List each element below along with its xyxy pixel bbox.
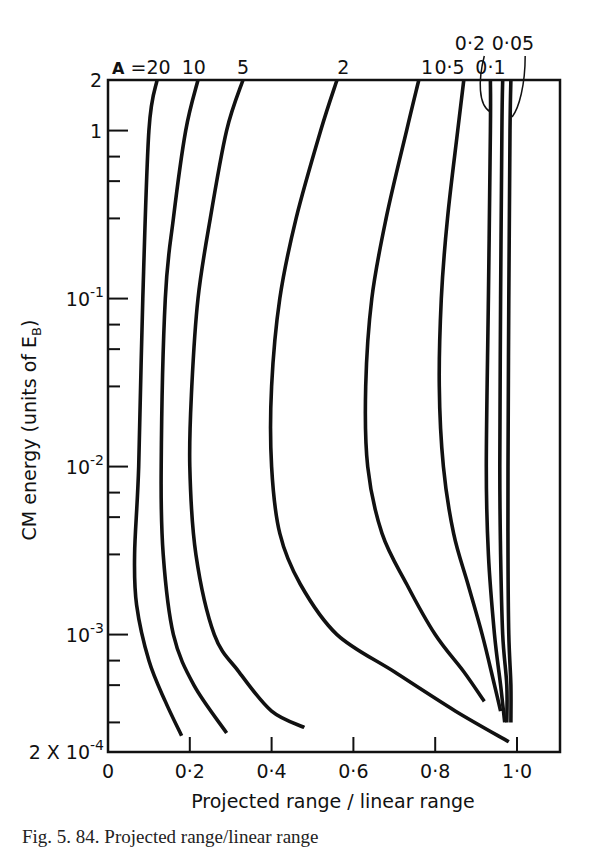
x-axis-ticks: 00·20·40·60·81·0 (102, 737, 532, 782)
x-tick-label: 0·8 (420, 760, 450, 782)
y-tick-label: 2 (90, 69, 102, 91)
plot-frame (108, 80, 560, 752)
y-tick-label: 10-2 (66, 452, 104, 478)
figure-caption: Fig. 5. 84. Projected range/linear range (22, 826, 319, 848)
curve-label: 0·5 (434, 56, 464, 78)
x-tick-label: 0·2 (175, 760, 205, 782)
x-tick-label: 0·6 (338, 760, 368, 782)
y-axis-label: CM energy (units of EB) (18, 320, 44, 541)
svg-text:CM energy (units of EB): CM energy (units of EB) (18, 320, 44, 541)
y-tick-label: 1 (90, 120, 102, 142)
x-tick-label: 0 (102, 760, 114, 782)
curve-A-0_05 (508, 80, 511, 722)
x-axis-label: Projected range / linear range (191, 790, 475, 812)
curve-label: 0·05 (492, 32, 534, 54)
y-axis-ticks: 2110-110-210-32 X 10-4 (29, 69, 128, 763)
plot-border (108, 80, 560, 752)
y-axis-label-subscript: B (29, 327, 44, 336)
curve-label: 0·1 (475, 56, 505, 78)
y-axis-label-main: CM energy (units of E (18, 336, 40, 540)
y-tick-label: 10-1 (66, 284, 104, 310)
curve-A-5 (190, 80, 305, 728)
curve-A-2 (271, 80, 509, 742)
curve-label: 5 (237, 56, 249, 78)
curve-label: 1 (421, 56, 433, 78)
leader-line-0_05 (512, 56, 525, 117)
curve-A-1 (365, 80, 484, 701)
x-tick-label: 1·0 (502, 760, 532, 782)
x-tick-label: 0·4 (256, 760, 286, 782)
y-axis-label-close: ) (18, 320, 40, 327)
curve-label: 2 (337, 56, 349, 78)
curve-labels: A =20105210·50·10·20·05 (112, 32, 534, 117)
y-tick-label: 10-3 (66, 620, 104, 646)
curve-label: A =20 (112, 56, 171, 78)
y-tick-label: 2 X 10-4 (29, 737, 104, 763)
data-curves (134, 80, 511, 742)
curve-label: 10 (182, 56, 206, 78)
curve-label: 0·2 (455, 32, 485, 54)
curve-A-0_1 (500, 80, 507, 722)
